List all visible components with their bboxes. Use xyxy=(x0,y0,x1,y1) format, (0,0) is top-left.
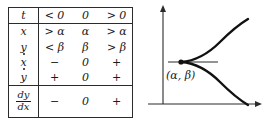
cusp-point-marker xyxy=(178,59,183,64)
table-row-x: x > α α > α xyxy=(9,24,133,40)
sign-table-panel: t < 0 0 > 0 x > α α > α xyxy=(8,7,130,118)
fraction-dy-dx: dy dx xyxy=(16,90,30,113)
cell-ydot-positive: + xyxy=(101,70,133,86)
upper-branch-curve xyxy=(181,19,248,62)
figure-root: t < 0 0 > 0 x > α α > α xyxy=(0,0,267,125)
table-row-y: y < β β > β xyxy=(9,40,133,55)
x-axis-arrow xyxy=(255,101,262,107)
table-row-header: t < 0 0 > 0 xyxy=(9,8,133,24)
header-cell-positive: > 0 xyxy=(101,8,133,24)
graph-panel: (α, β) xyxy=(140,0,267,125)
table-row-dydx: dy dx − 0 + xyxy=(9,85,133,117)
x-dot-symbol: x xyxy=(20,57,26,68)
cell-dydx-positive: + xyxy=(101,85,133,117)
header-cell-zero: 0 xyxy=(70,8,101,24)
cell-ydot-negative: + xyxy=(39,70,71,86)
table-row-xdot: x − 0 + xyxy=(9,55,133,70)
cell-dydx-negative: − xyxy=(39,85,71,117)
cell-y-positive: > β xyxy=(101,40,133,55)
y-axis-arrow xyxy=(160,5,166,12)
row-label-dydx: dy dx xyxy=(9,85,39,117)
cell-xdot-positive: + xyxy=(101,55,133,70)
table-row-ydot: y + 0 + xyxy=(9,70,133,86)
header-cell-negative: < 0 xyxy=(39,8,71,24)
cell-x-zero: α xyxy=(70,24,101,40)
row-label-x: x xyxy=(9,24,39,40)
cell-y-zero: β xyxy=(70,40,101,55)
sign-table: t < 0 0 > 0 x > α α > α xyxy=(8,7,133,118)
cell-xdot-negative: − xyxy=(39,55,71,70)
cell-x-positive: > α xyxy=(101,24,133,40)
y-dot-symbol: y xyxy=(20,72,26,83)
cusp-point-label: (α, β) xyxy=(166,69,195,82)
row-label-t: t xyxy=(9,8,39,24)
fraction-denominator: dx xyxy=(16,102,30,113)
row-label-y-dot: y xyxy=(9,70,39,86)
cell-y-negative: < β xyxy=(39,40,71,55)
cusp-curve-graph: (α, β) xyxy=(140,0,267,125)
cell-ydot-zero: 0 xyxy=(70,70,101,86)
cell-xdot-zero: 0 xyxy=(70,55,101,70)
cell-x-negative: > α xyxy=(39,24,71,40)
cell-dydx-zero: 0 xyxy=(70,85,101,117)
